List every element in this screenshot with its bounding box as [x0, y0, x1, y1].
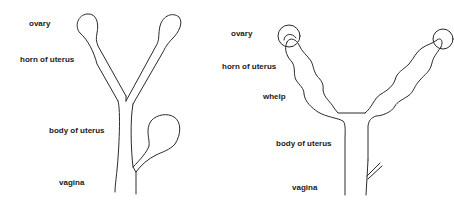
left-ovary-outline [77, 14, 126, 101]
left-horn-inner-edge [287, 39, 365, 113]
right-horn-outer-edge [368, 47, 441, 160]
body-right-edge [366, 160, 368, 195]
non-pregnant-uterus-drawing [77, 14, 181, 194]
body-left-edge [115, 101, 120, 192]
uterus-diagrams [0, 0, 454, 213]
left-ovary-circle [278, 25, 300, 47]
left-horn-outer-edge [286, 42, 346, 195]
bladder-outline [133, 115, 180, 172]
right-ovary-outline [126, 15, 181, 104]
pregnant-uterus-drawing [278, 25, 453, 195]
right-ovary-circle [433, 29, 453, 49]
body-right-edge [131, 104, 136, 194]
right-ovary-junction [437, 39, 442, 47]
right-horn-inner-edge [365, 40, 437, 113]
